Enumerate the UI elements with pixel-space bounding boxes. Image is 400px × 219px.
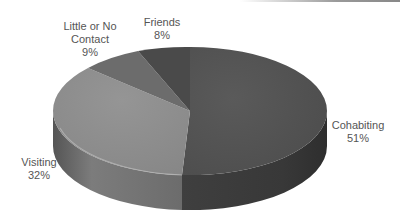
label-visiting-name: Visiting [14, 156, 64, 169]
label-cohabiting: Cohabiting 51% [326, 119, 390, 145]
label-little-line1: Little or No [50, 20, 130, 33]
label-friends-pct: 8% [140, 29, 184, 42]
label-cohabiting-pct: 51% [326, 132, 390, 145]
label-visiting: Visiting 32% [14, 156, 64, 182]
label-little-pct: 9% [50, 46, 130, 59]
label-friends-name: Friends [140, 16, 184, 29]
pie-top [53, 47, 327, 175]
label-little-line2: Contact [50, 33, 130, 46]
label-cohabiting-name: Cohabiting [326, 119, 390, 132]
label-friends: Friends 8% [140, 16, 184, 42]
label-visiting-pct: 32% [14, 169, 64, 182]
label-little-or-no-contact: Little or No Contact 9% [50, 20, 130, 59]
